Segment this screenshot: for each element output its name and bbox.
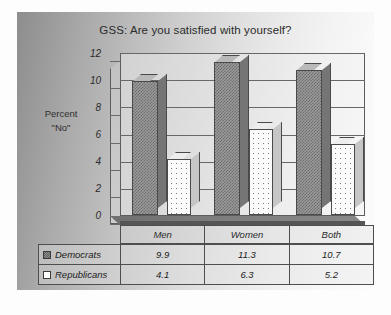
bar-men-republicans: [167, 159, 191, 215]
cell-republicans-men: 4.1: [121, 265, 205, 284]
bar-front-face: [132, 81, 158, 215]
cell-republicans-women: 6.3: [205, 265, 289, 284]
bar-front-face: [167, 159, 191, 215]
gridline-12: [120, 53, 365, 54]
bar-front-face: [214, 62, 240, 215]
cell-democrats-men: 9.9: [121, 245, 205, 264]
bar-side-face: [355, 137, 364, 208]
category-axis-strip: Men Women Both: [120, 225, 374, 244]
tick-stub-4: [110, 170, 121, 171]
bar-women-republicans: [249, 129, 273, 215]
bar-side-face: [158, 74, 167, 208]
bar-side-face: [240, 55, 249, 208]
y-tick-label-6: 6: [75, 129, 101, 140]
cell-democrats-women: 11.3: [205, 245, 289, 264]
bar-both-democrats: [296, 70, 322, 215]
y-tick-label-0: 0: [75, 210, 101, 221]
y-tick-label-12: 12: [75, 48, 101, 59]
bar-side-face: [191, 152, 200, 208]
chart-screenshot: GSS: Are you satisfied with yourself? Pe…: [0, 0, 391, 315]
tick-stub-2: [110, 197, 121, 198]
cell-democrats-both: 10.7: [290, 245, 373, 264]
y-tick-label-8: 8: [75, 102, 101, 113]
y-tick-label-10: 10: [75, 75, 101, 86]
legend-entry-democrats: Democrats: [39, 245, 121, 264]
plot-area: [110, 53, 374, 224]
chart-title: GSS: Are you satisfied with yourself?: [17, 24, 374, 36]
legend-label-democrats: Democrats: [55, 249, 101, 260]
category-label-both: Both: [290, 226, 373, 243]
chart-plate: GSS: Are you satisfied with yourself? Pe…: [17, 12, 374, 290]
bar-front-face: [331, 144, 355, 215]
bar-both-republicans: [331, 144, 355, 215]
tick-stub-12: [110, 61, 121, 62]
bar-men-democrats: [132, 81, 158, 215]
bar-side-face: [273, 122, 282, 208]
cell-republicans-both: 5.2: [290, 265, 373, 284]
bar-side-face: [322, 63, 331, 208]
bar-front-face: [249, 129, 273, 215]
y-tick-label-2: 2: [75, 183, 101, 194]
tick-stub-6: [110, 143, 121, 144]
legend-swatch-democrats-icon: [43, 251, 51, 259]
table-row-democrats: Democrats 9.9 11.3 10.7: [39, 245, 373, 265]
data-table: Democrats 9.9 11.3 10.7 Republicans 4.1 …: [38, 244, 374, 285]
table-row-republicans: Republicans 4.1 6.3 5.2: [39, 265, 373, 285]
legend-label-republicans: Republicans: [55, 269, 107, 280]
category-label-men: Men: [121, 226, 205, 243]
bar-women-democrats: [214, 62, 240, 215]
legend-swatch-republicans-icon: [43, 271, 51, 279]
tick-stub-8: [110, 115, 121, 116]
tick-stub-10: [110, 88, 121, 89]
legend-entry-republicans: Republicans: [39, 265, 121, 284]
category-label-women: Women: [205, 226, 289, 243]
bar-front-face: [296, 70, 322, 215]
y-tick-label-4: 4: [75, 156, 101, 167]
